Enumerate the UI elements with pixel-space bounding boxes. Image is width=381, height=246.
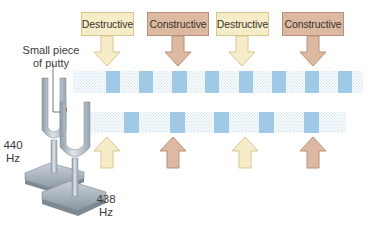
down-arrow-destructive-2 (229, 36, 255, 66)
down-arrow-constructive-2 (300, 36, 326, 66)
sound-wave-440hz (73, 71, 363, 93)
diagram-canvas (0, 0, 381, 246)
down-arrow-destructive-1 (94, 36, 120, 66)
sound-wave-438hz (90, 112, 346, 133)
up-arrow-constructive-1 (160, 137, 186, 168)
fork2-freq-unit: Hz (93, 206, 119, 219)
fork2-frequency-label: 438 Hz (93, 193, 119, 219)
down-arrow-constructive-1 (165, 36, 191, 66)
putty-label-line1: Small piece (20, 44, 82, 57)
fork1-freq-unit: Hz (0, 152, 26, 165)
fork1-frequency-label: 440 Hz (0, 139, 26, 165)
up-arrow-destructive-1 (94, 137, 120, 168)
up-arrow-destructive-2 (232, 137, 258, 168)
fork2-freq-value: 438 (93, 193, 119, 206)
putty-label: Small piece of putty (20, 44, 82, 70)
up-arrow-constructive-2 (300, 137, 326, 168)
putty-label-line2: of putty (20, 57, 82, 70)
fork1-freq-value: 440 (0, 139, 26, 152)
